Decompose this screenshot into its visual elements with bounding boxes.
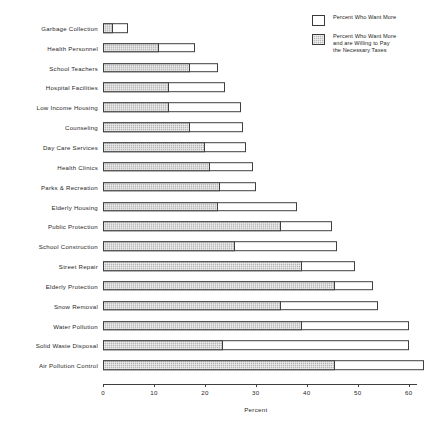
bar-group xyxy=(103,103,241,113)
x-axis-tick-label: 40 xyxy=(303,389,310,396)
chart-row: Health Clinics xyxy=(0,157,443,177)
bar-group xyxy=(103,222,332,232)
chart-row: Water Pollution xyxy=(0,316,443,336)
bar-group xyxy=(103,360,424,370)
bar-willing-to-pay xyxy=(103,103,169,113)
bar-willing-to-pay xyxy=(103,43,159,53)
x-axis-line xyxy=(103,384,417,385)
x-axis-tick-label: 10 xyxy=(150,389,157,396)
plot-area: Garbage CollectionHealth PersonnelSchool… xyxy=(0,18,443,375)
x-axis-tick-label: 20 xyxy=(201,389,208,396)
bar-willing-to-pay xyxy=(103,301,281,311)
category-label: Elderly Housing xyxy=(52,203,98,210)
bar-group xyxy=(103,341,409,351)
category-label: School Construction xyxy=(39,243,98,250)
bar-willing-to-pay xyxy=(103,202,218,212)
category-label: Day Care Services xyxy=(43,143,98,150)
x-axis-tick xyxy=(154,384,155,387)
bar-willing-to-pay xyxy=(103,122,190,132)
bar-group xyxy=(103,301,378,311)
chart-row: Elderly Housing xyxy=(0,197,443,217)
x-axis-tick-label: 60 xyxy=(405,389,412,396)
bar-willing-to-pay xyxy=(103,241,235,251)
bar-willing-to-pay xyxy=(103,222,281,232)
x-axis-tick-label: 30 xyxy=(252,389,259,396)
chart-row: Snow Removal xyxy=(0,296,443,316)
bar-willing-to-pay xyxy=(103,321,302,331)
category-label: Water Pollution xyxy=(53,322,98,329)
chart-row: School Teachers xyxy=(0,58,443,78)
chart-row: Public Protection xyxy=(0,216,443,236)
bar-group xyxy=(103,241,337,251)
bar-group xyxy=(103,202,297,212)
x-axis-tick xyxy=(205,384,206,387)
x-axis-tick xyxy=(103,384,104,387)
bar-group xyxy=(103,23,128,33)
bar-group xyxy=(103,63,218,73)
category-label: Parks & Recreation xyxy=(41,183,98,190)
bar-group xyxy=(103,162,253,172)
bar-group xyxy=(103,83,225,93)
bar-willing-to-pay xyxy=(103,83,169,93)
category-label: Low Income Housing xyxy=(37,104,98,111)
chart-row: Air Pollution Control xyxy=(0,355,443,375)
chart-row: Street Repair xyxy=(0,256,443,276)
category-label: Street Repair xyxy=(59,263,98,270)
x-axis-tick xyxy=(358,384,359,387)
category-label: Air Pollution Control xyxy=(39,362,98,369)
bar-willing-to-pay xyxy=(103,142,205,152)
category-label: Garbage Collection xyxy=(41,24,98,31)
chart-row: Garbage Collection xyxy=(0,18,443,38)
bar-willing-to-pay xyxy=(103,281,335,291)
bar-group xyxy=(103,43,195,53)
survey-bar-chart: Percent Who Want More Percent Who Want M… xyxy=(0,0,443,427)
bar-group xyxy=(103,142,246,152)
category-label: Health Clinics xyxy=(57,163,98,170)
chart-row: Solid Waste Disposal xyxy=(0,336,443,356)
chart-row: Day Care Services xyxy=(0,137,443,157)
bar-willing-to-pay xyxy=(103,261,302,271)
category-label: Solid Waste Disposal xyxy=(36,342,98,349)
x-axis-title: Percent xyxy=(244,406,267,413)
chart-row: School Construction xyxy=(0,236,443,256)
x-axis: 0102030405060Percent xyxy=(0,384,443,427)
bar-group xyxy=(103,261,355,271)
category-label: School Teachers xyxy=(49,64,98,71)
chart-row: Elderly Protection xyxy=(0,276,443,296)
bar-willing-to-pay xyxy=(103,63,190,73)
chart-row: Low Income Housing xyxy=(0,97,443,117)
bar-willing-to-pay xyxy=(103,23,113,33)
x-axis-tick-label: 0 xyxy=(101,389,105,396)
x-axis-tick-label: 50 xyxy=(354,389,361,396)
category-label: Counseling xyxy=(65,124,98,131)
x-axis-tick xyxy=(256,384,257,387)
category-label: Snow Removal xyxy=(54,302,98,309)
x-axis-tick xyxy=(307,384,308,387)
bar-willing-to-pay xyxy=(103,341,223,351)
bar-willing-to-pay xyxy=(103,162,210,172)
category-label: Health Personnel xyxy=(47,44,98,51)
chart-row: Hospital Facilities xyxy=(0,78,443,98)
x-axis-tick xyxy=(409,384,410,387)
chart-row: Parks & Recreation xyxy=(0,177,443,197)
bar-group xyxy=(103,122,243,132)
chart-row: Counseling xyxy=(0,117,443,137)
bar-willing-to-pay xyxy=(103,182,220,192)
bar-group xyxy=(103,281,373,291)
bar-group xyxy=(103,182,256,192)
category-label: Elderly Protection xyxy=(46,282,98,289)
bar-willing-to-pay xyxy=(103,360,335,370)
bar-group xyxy=(103,321,409,331)
chart-row: Health Personnel xyxy=(0,38,443,58)
category-label: Public Protection xyxy=(48,223,98,230)
category-label: Hospital Facilities xyxy=(46,84,98,91)
